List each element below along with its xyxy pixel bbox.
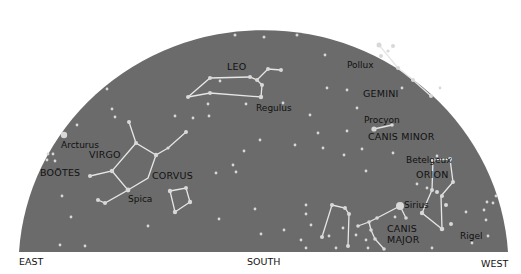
sky-chart [0, 0, 521, 274]
label-rigel: Rigel [460, 231, 483, 241]
label-virgo: VIRGO [89, 150, 121, 160]
label-pollux: Pollux [347, 60, 374, 70]
label-spica: Spica [128, 194, 152, 204]
label-bootes: BOÖTES [40, 168, 80, 178]
label-gemini: GEMINI [363, 89, 398, 99]
label-orion: ORION [416, 170, 448, 180]
direction-east: EAST [19, 256, 43, 267]
label-leo: LEO [227, 62, 246, 72]
direction-west: WEST [481, 258, 508, 269]
label-procyon: Procyon [364, 115, 400, 125]
label-betelgeuse: Betelgeux [406, 155, 452, 165]
label-canis-minor: CANIS MINOR [368, 132, 434, 142]
label-canis-major-2: MAJOR [387, 235, 420, 245]
label-regulus: Regulus [256, 103, 292, 113]
label-canis-major-1: CANIS [387, 224, 417, 234]
label-corvus: CORVUS [152, 171, 193, 181]
direction-south: SOUTH [247, 256, 280, 267]
label-sirius: Sirius [404, 200, 429, 210]
